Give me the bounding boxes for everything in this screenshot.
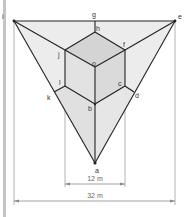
label-d: d xyxy=(135,92,139,99)
arrow-right-icon xyxy=(170,200,175,203)
arrow-left-icon xyxy=(14,200,19,203)
dimension-inner: 12 m xyxy=(65,175,125,186)
vertex-i xyxy=(13,20,16,23)
arrow-left-icon xyxy=(65,183,70,186)
arrow-right-icon xyxy=(120,183,125,186)
dimension-outer-label: 32 m xyxy=(87,192,103,199)
vertex-b xyxy=(94,103,96,105)
label-h: h xyxy=(96,25,100,32)
dimension-outer: 32 m xyxy=(14,192,175,203)
label-f: f xyxy=(123,41,125,48)
label-g: g xyxy=(92,11,96,19)
label-e: e xyxy=(178,13,182,20)
label-c: c xyxy=(118,80,122,87)
label-j: j xyxy=(57,51,60,59)
label-a: a xyxy=(95,167,99,174)
page-edge-bar xyxy=(3,0,6,217)
vertex-a xyxy=(93,161,96,164)
dimension-inner-label: 12 m xyxy=(87,175,103,182)
label-o: o xyxy=(92,60,96,67)
diagram-canvas: i g e h f j o l c k d b a 12 m 32 m xyxy=(0,0,188,217)
vertex-e xyxy=(174,20,177,23)
label-b: b xyxy=(88,105,92,112)
label-k: k xyxy=(47,94,51,101)
